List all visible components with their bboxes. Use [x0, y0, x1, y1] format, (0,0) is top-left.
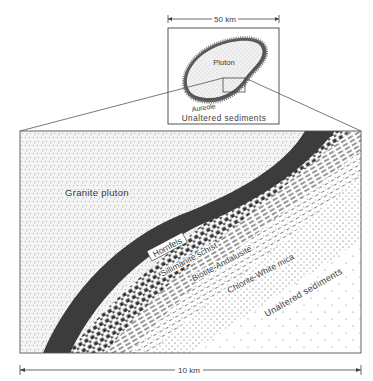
inset-pluton-label: Pluton [213, 58, 234, 67]
main-scale-bar: 10 km [20, 365, 361, 375]
inset-sediments-label: Unaltered sediments [182, 114, 267, 123]
main-detail [20, 131, 361, 353]
inset-map: 50 km Pluton Aureole Unaltered sediments [168, 15, 279, 124]
main-scale-label: 10 km [178, 366, 200, 375]
granite-pluton-label: Granite pluton [65, 187, 129, 198]
inset-scale-bar: 50 km [168, 15, 279, 24]
contact-metamorphism-diagram: 50 km Pluton Aureole Unaltered sediments… [0, 0, 373, 381]
inset-scale-label: 50 km [214, 15, 236, 24]
